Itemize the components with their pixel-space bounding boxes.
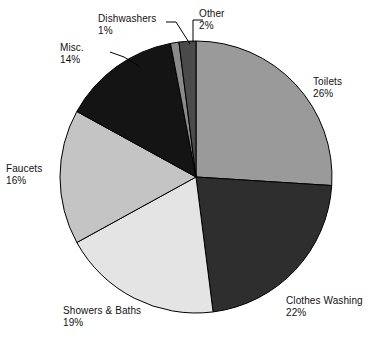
- pie-label-toilets: Toilets26%: [313, 76, 342, 100]
- pie-label-misc: Misc.14%: [60, 42, 84, 66]
- pie-label-value: 14%: [60, 54, 84, 66]
- pie-label-value: 26%: [313, 88, 342, 100]
- pie-label-other: Other2%: [199, 8, 225, 32]
- pie-slices-group: [60, 41, 332, 313]
- pie-chart: Toilets26%Clothes Washing22%Showers & Ba…: [0, 0, 371, 340]
- pie-label-name: Clothes Washing: [286, 295, 363, 307]
- pie-label-value: 22%: [286, 307, 363, 319]
- pie-label-name: Showers & Baths: [63, 305, 141, 317]
- pie-label-showers-baths: Showers & Baths19%: [63, 305, 141, 329]
- pie-label-name: Toilets: [313, 76, 342, 88]
- pie-label-name: Faucets: [6, 163, 42, 175]
- pie-label-value: 2%: [199, 20, 225, 32]
- pie-label-faucets: Faucets16%: [6, 163, 42, 187]
- pie-chart-canvas: [0, 0, 371, 340]
- pie-label-dishwashers: Dishwashers1%: [98, 13, 156, 37]
- pie-label-name: Misc.: [60, 42, 84, 54]
- pie-label-value: 1%: [98, 25, 156, 37]
- pie-slice-clothes-washing[interactable]: [196, 177, 332, 312]
- pie-label-value: 19%: [63, 317, 141, 329]
- pie-label-value: 16%: [6, 175, 42, 187]
- leader-line-dishwashers: [166, 22, 190, 44]
- pie-label-name: Other: [199, 8, 225, 20]
- pie-slice-toilets[interactable]: [196, 41, 332, 186]
- pie-label-name: Dishwashers: [98, 13, 156, 25]
- pie-label-clothes-washing: Clothes Washing22%: [286, 295, 363, 319]
